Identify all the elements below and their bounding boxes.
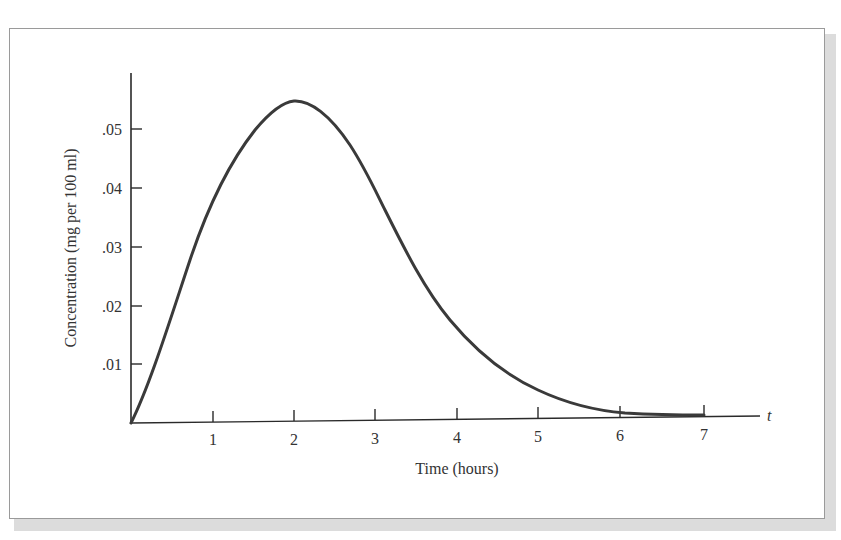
y-tick-label: .05 [102,121,122,138]
x-tick-label: 4 [453,429,461,446]
y-ticks [131,129,142,364]
y-tick-label: .01 [102,356,122,373]
x-axis [131,416,760,423]
x-tick-labels: 1 2 3 4 5 6 7 [209,426,708,448]
y-tick-labels: .01 .02 .03 .04 .05 [102,121,122,373]
x-tick-label: 2 [290,431,298,448]
x-tick-label: 7 [700,426,708,443]
concentration-curve [131,101,704,423]
y-tick-label: .03 [102,239,122,256]
x-tick-label: 6 [616,427,624,444]
x-tick-label: 3 [371,430,379,447]
y-tick-label: .04 [102,180,122,197]
x-tick-label: 1 [209,431,217,448]
x-axis-title: Time (hours) [415,460,498,478]
y-tick-label: .02 [102,298,122,315]
t-variable-label: t [767,407,772,424]
y-axis-title: Concentration (mg per 100 ml) [62,148,80,347]
x-tick-label: 5 [534,428,542,445]
chart-svg: .01 .02 .03 .04 .05 1 2 3 4 5 6 7 t Time… [0,0,841,540]
